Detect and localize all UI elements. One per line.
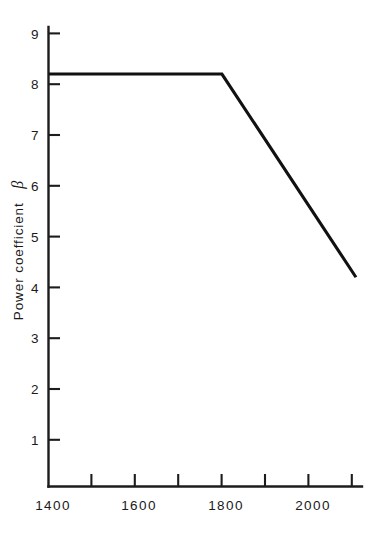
y-axis-title: Power coefficient β [9, 180, 27, 320]
x-tick-label-1400: 1400 [35, 498, 71, 513]
y-axis-title-text: Power coefficient [11, 202, 26, 320]
y-tick-label-4: 4 [31, 281, 40, 296]
y-tick-label-2: 2 [31, 382, 40, 397]
y-tick-label-8: 8 [31, 77, 40, 92]
y-tick-marks [49, 33, 60, 439]
axes-group [49, 27, 363, 487]
power-coefficient-line [49, 74, 356, 277]
x-tick-label-1800: 1800 [208, 498, 244, 513]
data-series-group [49, 74, 356, 277]
y-tick-label-5: 5 [31, 230, 40, 245]
y-tick-labels: 9 8 7 6 5 4 3 2 1 [31, 27, 40, 448]
y-tick-label-6: 6 [31, 179, 40, 194]
y-tick-label-7: 7 [31, 128, 40, 143]
line-chart-plot: 9 8 7 6 5 4 3 2 1 1400 1600 1800 2000 [0, 0, 386, 537]
x-tick-marks [91, 474, 351, 486]
y-tick-label-1: 1 [31, 433, 40, 448]
y-axis-title-group: Power coefficient β [9, 180, 27, 320]
y-tick-label-3: 3 [31, 331, 40, 346]
beta-symbol: β [9, 180, 27, 190]
x-tick-labels: 1400 1600 1800 2000 [35, 498, 331, 513]
chart-figure: 9 8 7 6 5 4 3 2 1 1400 1600 1800 2000 [0, 0, 386, 537]
y-tick-label-9: 9 [31, 27, 40, 42]
x-tick-label-2000: 2000 [295, 498, 331, 513]
x-tick-label-1600: 1600 [121, 498, 157, 513]
